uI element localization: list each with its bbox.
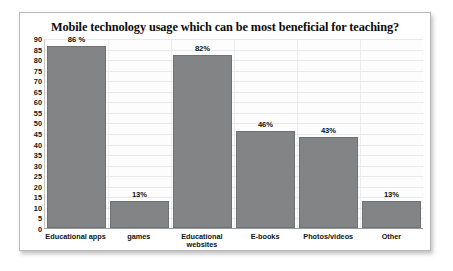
bar-slot: 13% — [360, 39, 423, 228]
bar-slot: 86 % — [45, 39, 108, 228]
x-tick-label: games — [107, 233, 170, 241]
y-tick-label: 80 — [23, 57, 42, 64]
bar-slot: 43% — [297, 39, 360, 228]
plot-wrapper: 908580757065605550454035302520151050 86 … — [20, 39, 430, 250]
bar-series: 86 %13%82%46%43%13% — [45, 39, 423, 228]
y-tick-label: 5 — [23, 215, 42, 222]
y-tick-label: 20 — [23, 183, 42, 190]
bar-value-label: 82% — [171, 44, 234, 53]
y-tick-label: 85 — [23, 46, 42, 53]
y-tick-label: 90 — [23, 36, 42, 43]
y-axis: 908580757065605550454035302520151050 — [23, 39, 42, 229]
y-tick-label: 45 — [23, 131, 42, 138]
bar[interactable] — [362, 201, 421, 228]
x-tick-label: Photos/videos — [297, 233, 360, 241]
y-tick-label: 10 — [23, 204, 42, 211]
bar-value-label: 86 % — [45, 35, 108, 44]
y-tick-label: 0 — [23, 226, 42, 233]
y-tick-label: 65 — [23, 88, 42, 95]
y-tick-label: 75 — [23, 67, 42, 74]
x-tick-label: Other — [360, 233, 423, 241]
x-tick-label: Educational apps — [44, 233, 107, 241]
chart-title: Mobile technology usage which can be mos… — [20, 20, 430, 35]
bar-value-label: 13% — [360, 190, 423, 199]
y-tick-label: 35 — [23, 152, 42, 159]
bar[interactable] — [47, 46, 106, 228]
y-tick-label: 15 — [23, 194, 42, 201]
y-tick-label: 50 — [23, 120, 42, 127]
bar[interactable] — [236, 131, 295, 228]
bar-slot: 46% — [234, 39, 297, 228]
bar-value-label: 13% — [108, 190, 171, 199]
y-tick-label: 60 — [23, 99, 42, 106]
y-tick-label: 55 — [23, 109, 42, 116]
bar-value-label: 46% — [234, 120, 297, 129]
y-tick-label: 70 — [23, 78, 42, 85]
x-axis: Educational appsgamesEducational website… — [44, 231, 423, 257]
x-tick-label: E-books — [234, 233, 297, 241]
bar[interactable] — [173, 55, 232, 228]
y-tick-label: 25 — [23, 173, 42, 180]
chart-card: Mobile technology usage which can be mos… — [19, 12, 431, 251]
x-tick-label: Educational websites — [170, 233, 233, 250]
bar-slot: 82% — [171, 39, 234, 228]
y-tick-label: 40 — [23, 141, 42, 148]
bar[interactable] — [110, 201, 169, 228]
y-tick-label: 30 — [23, 162, 42, 169]
plot-area: 86 %13%82%46%43%13% — [44, 39, 423, 229]
bar-slot: 13% — [108, 39, 171, 228]
bar[interactable] — [299, 137, 358, 228]
bar-value-label: 43% — [297, 126, 360, 135]
